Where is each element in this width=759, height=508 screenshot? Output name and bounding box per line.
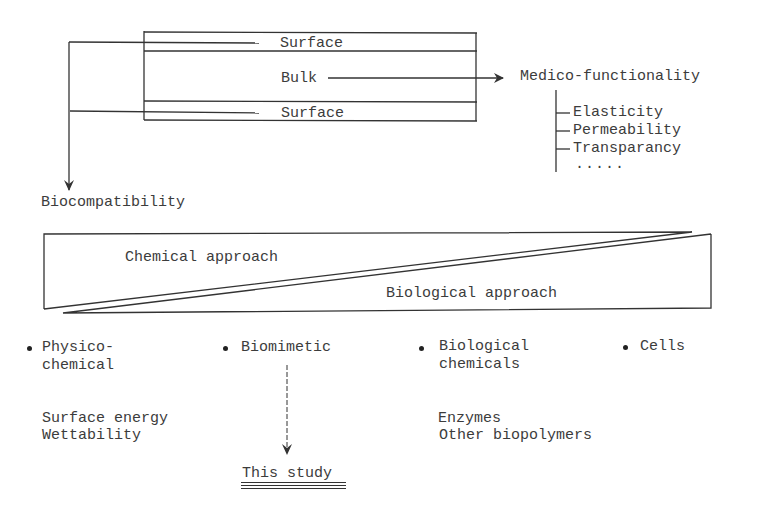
underline-1	[241, 482, 346, 483]
bullet-icon	[223, 346, 228, 351]
this-study-label: This study	[242, 465, 332, 482]
bullet-icon	[623, 345, 628, 350]
property-ellipsis: .....	[575, 156, 625, 173]
underline-2	[241, 485, 346, 486]
example-other-biopolymers: Other biopolymers	[439, 427, 592, 444]
example-enzymes: Enzymes	[438, 410, 501, 427]
biological-approach-label: Biological approach	[386, 285, 557, 302]
category-physico-line2: chemical	[42, 357, 114, 374]
bulk-label: Bulk	[281, 70, 317, 87]
surface-bottom-label: Surface	[281, 105, 344, 122]
surface-top-label: Surface	[280, 35, 343, 52]
category-biological-line2: chemicals	[439, 356, 520, 373]
property-transparancy: Transparancy	[573, 140, 681, 157]
bullet-icon	[27, 346, 32, 351]
category-physico-line1: Physico-	[42, 339, 114, 356]
example-surface-energy: Surface energy	[42, 410, 168, 427]
property-permeability: Permeability	[573, 122, 681, 139]
underline-3	[241, 488, 346, 489]
category-biomimetic: Biomimetic	[241, 339, 331, 356]
category-cells: Cells	[640, 338, 685, 355]
bullet-icon	[419, 346, 424, 351]
property-elasticity: Elasticity	[573, 104, 663, 121]
example-wettability: Wettability	[42, 427, 141, 444]
biocompatibility-label: Biocompatibility	[41, 194, 185, 211]
medico-functionality-label: Medico-functionality	[520, 68, 700, 85]
category-biological-line1: Biological	[439, 338, 529, 355]
chemical-approach-label: Chemical approach	[125, 249, 278, 266]
